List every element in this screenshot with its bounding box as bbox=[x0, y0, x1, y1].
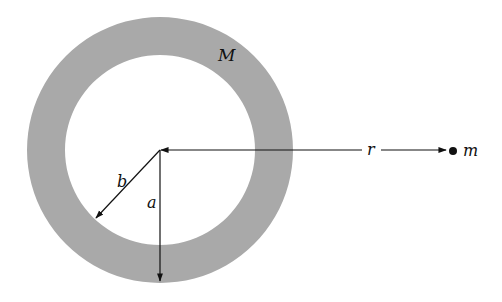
label-point-mass: m bbox=[463, 141, 478, 160]
point-mass-dot bbox=[449, 147, 457, 155]
label-shell-mass: M bbox=[217, 45, 236, 65]
shell-diagram: M a b r m bbox=[0, 0, 502, 302]
label-inner-radius: b bbox=[117, 172, 127, 191]
label-outer-radius: a bbox=[147, 193, 157, 212]
label-distance: r bbox=[367, 140, 376, 159]
